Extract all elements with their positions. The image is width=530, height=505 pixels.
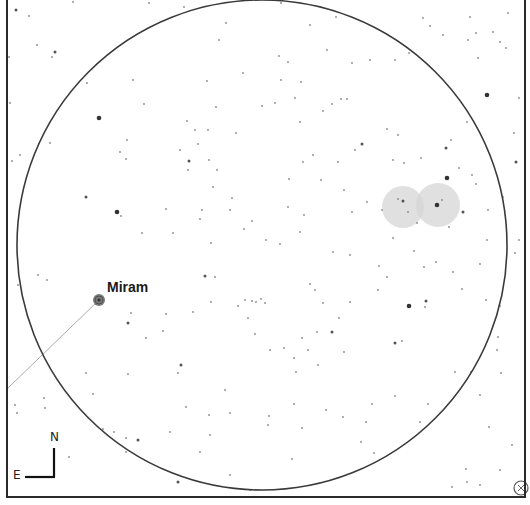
star [488,426,490,428]
star [264,302,266,304]
star [331,331,334,334]
star [237,305,239,307]
star [309,24,311,26]
star [126,139,128,141]
star [486,239,488,241]
star [225,22,227,24]
star [127,322,130,325]
star [206,80,208,82]
star [349,254,351,256]
star [72,1,74,3]
star [401,340,403,342]
star [477,57,479,59]
star [180,364,183,367]
star [85,372,87,374]
compass-east-label: E [13,468,21,482]
star [255,301,257,303]
star [475,32,477,34]
star [361,143,364,146]
star [300,81,302,83]
star [445,176,450,181]
star [125,158,127,160]
star [373,452,375,454]
star [37,274,39,276]
star [322,302,324,304]
star [366,201,368,203]
star [215,106,217,108]
star [92,393,94,395]
star [513,132,515,134]
star [331,103,333,105]
star [185,406,187,408]
star [487,209,489,211]
chart-background [0,0,530,505]
star [518,239,520,241]
star [120,215,122,217]
star [325,409,327,411]
star [85,196,88,199]
star [497,336,499,338]
star [471,174,473,176]
star [267,424,269,426]
star [15,9,18,12]
star [349,301,351,303]
star [288,178,290,180]
star [254,333,256,335]
star [11,160,13,162]
star [394,59,396,61]
star [68,456,70,458]
star [461,288,463,290]
star [291,458,293,460]
star [162,330,164,332]
star [451,486,453,488]
star [177,481,180,484]
star [337,161,339,163]
star [316,331,318,333]
star [369,59,371,61]
star [301,337,303,339]
star [392,237,394,239]
star [265,239,267,241]
star [132,79,134,81]
star [179,149,181,151]
star [243,228,245,230]
star [514,252,516,254]
star [251,220,253,222]
star [394,395,396,397]
star [338,317,340,319]
named-star-miram[interactable] [93,294,105,306]
star [429,25,431,27]
star [287,206,289,208]
star [14,404,16,406]
star-label-miram: Miram [107,279,148,295]
star [269,349,271,351]
star [127,373,129,375]
star [448,226,450,228]
star [435,203,440,208]
star [210,301,212,303]
star [279,243,281,245]
star [274,102,276,104]
star [496,349,498,351]
star [425,300,428,303]
star [469,16,471,18]
star [8,56,10,58]
star [287,61,289,63]
star [192,311,194,313]
star [197,143,199,145]
star [293,403,295,405]
star [283,347,285,349]
star [342,416,344,418]
star [354,149,356,151]
star [351,62,353,64]
star [299,121,301,123]
star [392,159,394,161]
star-core [97,298,100,301]
star [242,72,244,74]
star [466,481,468,483]
star [427,403,429,405]
star [113,431,115,433]
star [251,300,253,302]
star [515,161,518,164]
star [51,56,53,58]
